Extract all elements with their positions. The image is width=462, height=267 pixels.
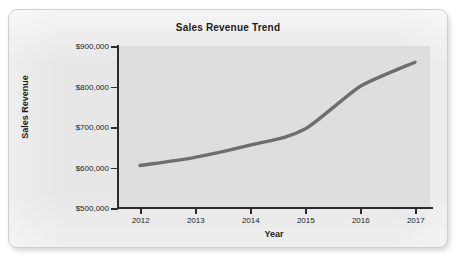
y-axis-tick [111,208,118,210]
y-axis-tick-label: $500,000 [45,204,109,213]
x-axis-line [117,207,433,209]
x-axis-tick [305,208,307,214]
x-axis-tick [415,208,417,214]
x-axis-tick-label: 2013 [174,216,218,225]
y-axis-tick-label: $600,000 [45,163,109,172]
y-axis-tick [111,127,118,129]
y-axis-tick-label: $900,000 [45,42,109,51]
x-axis-tick [140,208,142,214]
x-axis-tick [195,208,197,214]
y-axis-tick-label: $700,000 [45,123,109,132]
y-axis-tick-label: $800,000 [45,82,109,91]
x-axis-tick-label: 2015 [284,216,328,225]
x-axis-tick-label: 2014 [229,216,273,225]
y-axis-tick [111,87,118,89]
y-axis-title: Sales Revenue [20,57,30,157]
x-axis-tick [360,208,362,214]
x-axis-tick-label: 2017 [394,216,438,225]
y-axis-tick [111,168,118,170]
chart-title: Sales Revenue Trend [9,22,447,33]
x-axis-tick-label: 2016 [339,216,383,225]
plot-area [118,46,430,208]
chart-card: Sales Revenue Trend $900,000 $800,000 $7… [8,9,448,248]
x-axis-tick-label: 2012 [119,216,163,225]
x-axis-title: Year [118,229,430,239]
y-axis-tick [111,46,118,48]
x-axis-tick [250,208,252,214]
